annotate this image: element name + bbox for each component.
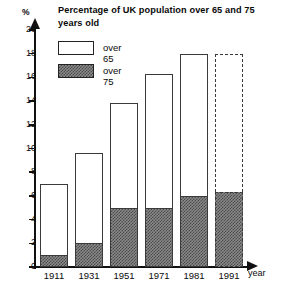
x-tick-label: 1971: [139, 270, 179, 281]
y-tick-label: 12: [6, 120, 36, 129]
chart-title: Percentage of UK population over 65 and …: [58, 4, 280, 30]
y-tick-label: 20: [6, 25, 36, 34]
bar-over-75: [215, 192, 243, 267]
y-tick-label: 16: [6, 72, 36, 81]
y-axis-label: %: [22, 7, 30, 17]
y-tick-label: 6: [6, 191, 36, 200]
x-tick-label: 1951: [104, 270, 144, 281]
legend-label: over 75: [103, 65, 121, 87]
bar-over-75: [40, 255, 68, 267]
x-tick-label: 1991: [209, 270, 249, 281]
legend-swatch-hatched: [58, 64, 94, 78]
chart-container: Percentage of UK population over 65 and …: [0, 0, 285, 289]
y-tick-label: 2: [6, 238, 36, 247]
y-tick-label: 8: [6, 167, 36, 176]
y-tick-label: 4: [6, 215, 36, 224]
x-tick-label: 1931: [69, 270, 109, 281]
y-tick-label: 0: [6, 262, 36, 271]
x-tick-label: 1911: [34, 270, 74, 281]
bar-over-75: [145, 208, 173, 267]
x-tick-label: 1981: [174, 270, 214, 281]
y-tick-label: 14: [6, 96, 36, 105]
bar-over-75: [110, 208, 138, 267]
y-tick-label: 10: [6, 144, 36, 153]
bar-over-75: [180, 196, 208, 267]
bar-over-75: [75, 243, 103, 267]
legend-label: over 65: [103, 42, 121, 64]
legend-swatch-open: [58, 41, 94, 55]
y-tick-label: 18: [6, 49, 36, 58]
